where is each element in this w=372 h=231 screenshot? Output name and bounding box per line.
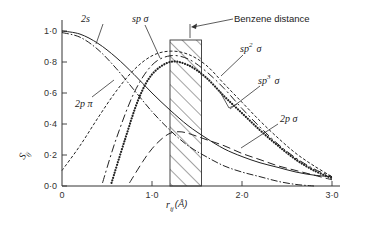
leader-benzene xyxy=(193,19,233,27)
label-2p-sigma: 2p σ xyxy=(280,113,299,124)
label-2s: 2s xyxy=(81,13,90,24)
series-sp- xyxy=(103,55,333,182)
leader-sp2 xyxy=(221,55,243,76)
overlap-integral-chart: 0·00·20·40·60·81·001·02·03·0 2s sp σ Ben… xyxy=(0,0,372,231)
chart-canvas: 0·00·20·40·60·81·001·02·03·0 2s sp σ Ben… xyxy=(0,0,372,231)
y-tick-label: 0·2 xyxy=(44,150,57,160)
y-tick-label: 0·0 xyxy=(44,181,57,191)
y-axis-label: Sij xyxy=(16,148,33,163)
x-tick-label: 0 xyxy=(59,190,64,200)
y-tick-label: 0·4 xyxy=(44,119,57,129)
leader-2p-sigma xyxy=(241,124,278,148)
x-tick-label: 1·0 xyxy=(145,190,158,200)
leader-2p-pi xyxy=(92,80,114,97)
label-2p-pi: 2p π xyxy=(75,98,94,109)
label-sp2-sigma: sp2σ xyxy=(240,41,262,54)
x-axis-label: rij(Å) xyxy=(166,198,187,213)
label-sp3-sigma: sp3σ xyxy=(258,73,280,86)
annotations: 2s sp σ Benzene distance sp2σ sp3σ 2p π … xyxy=(16,13,309,213)
y-tick-label: 0·6 xyxy=(44,88,57,98)
series-sp- xyxy=(112,61,333,182)
leader-2s xyxy=(96,24,103,44)
y-tick-label: 1·0 xyxy=(44,26,57,36)
leader-sp-sigma xyxy=(145,25,160,58)
arrowhead-benzene xyxy=(191,24,197,30)
x-tick-label: 3·0 xyxy=(325,190,338,200)
label-benzene-distance: Benzene distance xyxy=(234,13,310,24)
x-tick-label: 2·0 xyxy=(235,190,248,200)
label-sp-sigma: sp σ xyxy=(132,13,149,24)
y-tick-label: 0·8 xyxy=(44,57,57,67)
